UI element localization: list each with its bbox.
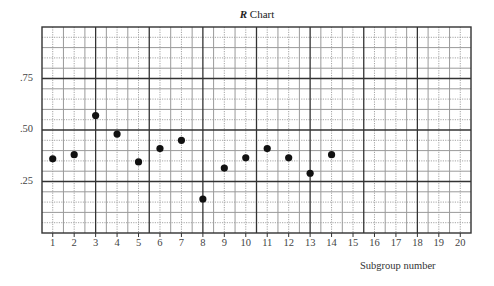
data-point (264, 145, 271, 152)
r-chart: R Chart .25.50.75 1234567891011121314151… (0, 0, 494, 286)
data-point (92, 112, 99, 119)
x-tick-label: 2 (66, 237, 82, 248)
x-tick-label: 18 (409, 237, 425, 248)
x-tick-label: 20 (452, 237, 468, 248)
x-tick-label: 9 (216, 237, 232, 248)
x-axis-label: Subgroup number (360, 260, 436, 271)
y-tick-label: .75 (3, 72, 33, 83)
data-point (178, 137, 185, 144)
data-point (135, 158, 142, 165)
x-tick-label: 1 (45, 237, 61, 248)
data-point (49, 155, 56, 162)
data-point (156, 145, 163, 152)
data-point (71, 151, 78, 158)
x-tick-label: 19 (431, 237, 447, 248)
data-point (307, 170, 314, 177)
x-tick-label: 10 (238, 237, 254, 248)
x-tick-label: 4 (109, 237, 125, 248)
data-point (328, 151, 335, 158)
x-tick-label: 16 (366, 237, 382, 248)
y-tick-label: .50 (3, 123, 33, 134)
x-tick-label: 14 (324, 237, 340, 248)
y-tick-label: .25 (3, 175, 33, 186)
x-tick-label: 12 (281, 237, 297, 248)
data-point (199, 195, 206, 202)
data-point (285, 154, 292, 161)
x-tick-label: 3 (88, 237, 104, 248)
data-point (113, 131, 120, 138)
data-point (242, 154, 249, 161)
x-tick-label: 13 (302, 237, 318, 248)
x-tick-label: 17 (388, 237, 404, 248)
x-tick-label: 8 (195, 237, 211, 248)
x-tick-label: 15 (345, 237, 361, 248)
x-tick-label: 5 (131, 237, 147, 248)
data-point (221, 165, 228, 172)
x-tick-label: 11 (259, 237, 275, 248)
x-tick-label: 7 (173, 237, 189, 248)
x-tick-label: 6 (152, 237, 168, 248)
